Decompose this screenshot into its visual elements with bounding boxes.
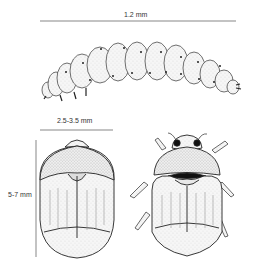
- left-eye: [174, 140, 180, 146]
- adult-second-view-illustration: [130, 133, 234, 256]
- larva-tail: [227, 80, 239, 94]
- larva-illustration: [42, 42, 241, 101]
- adult-pronotum: [154, 147, 220, 175]
- right-eye: [194, 140, 200, 146]
- illustration-canvas: [0, 0, 255, 272]
- adult-dorsal-illustration: [40, 140, 114, 258]
